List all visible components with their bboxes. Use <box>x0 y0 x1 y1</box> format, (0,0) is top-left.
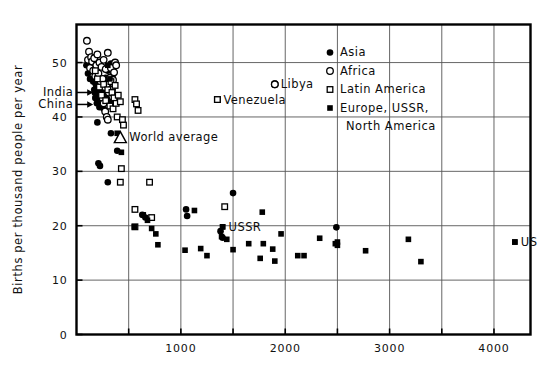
annotation-label: USSR <box>229 220 262 234</box>
marker-filled-square <box>149 226 155 232</box>
marker-open-square <box>115 92 121 98</box>
marker-open-circle <box>105 49 112 56</box>
marker-filled-square <box>512 239 518 245</box>
annotation-label: China <box>38 97 73 111</box>
marker-open-square <box>134 101 140 107</box>
marker-filled-square <box>155 242 161 248</box>
marker-open-circle <box>105 116 112 123</box>
marker-open-square <box>121 122 127 128</box>
marker-open-square <box>92 68 98 74</box>
marker-filled-square <box>145 217 151 223</box>
marker-open-circle <box>113 62 120 69</box>
marker-open-circle <box>327 68 334 75</box>
annotation-world-average: World average <box>114 130 218 144</box>
marker-filled-square <box>192 208 198 214</box>
marker-open-square <box>222 204 228 210</box>
marker-open-square <box>327 87 333 93</box>
marker-filled-circle <box>184 213 191 220</box>
marker-filled-square <box>270 246 276 252</box>
birth-rate-vs-gnp-scatter-chart: 010203040501000200030004000 IndiaChinaWo… <box>0 0 553 368</box>
marker-filled-square <box>246 241 252 247</box>
marker-filled-circle <box>230 190 237 197</box>
marker-open-square <box>119 166 125 172</box>
marker-open-circle <box>111 69 118 76</box>
legend-label: Europe, USSR, <box>340 101 429 115</box>
y-axis-title: Births per thousand people per year <box>11 65 25 294</box>
chart-background <box>0 0 553 368</box>
legend-label: Africa <box>340 64 376 78</box>
marker-filled-circle <box>105 179 112 186</box>
annotation-label: Libya <box>281 77 314 91</box>
marker-open-circle <box>94 51 101 58</box>
marker-open-square <box>109 90 115 96</box>
marker-filled-square <box>363 248 369 254</box>
marker-open-square <box>99 92 105 98</box>
marker-filled-square <box>261 241 267 247</box>
marker-filled-square <box>257 256 263 262</box>
y-tick-label: 40 <box>52 111 68 124</box>
legend-item-latin-america: Latin America <box>327 82 426 96</box>
marker-filled-square <box>107 76 113 82</box>
marker-open-square <box>110 106 116 112</box>
marker-open-circle <box>100 57 107 64</box>
x-tick-label: 2000 <box>270 342 301 355</box>
chart-figure: 010203040501000200030004000 IndiaChinaWo… <box>0 0 553 368</box>
marker-filled-square <box>327 105 333 111</box>
marker-open-square <box>118 179 124 185</box>
marker-filled-square <box>278 231 284 237</box>
legend-label: Asia <box>340 45 366 59</box>
marker-filled-square <box>418 259 424 265</box>
x-tick-label: 3000 <box>374 342 405 355</box>
marker-open-square <box>118 99 124 105</box>
y-tick-label: 10 <box>52 274 68 287</box>
marker-filled-square <box>220 224 226 230</box>
annotation-label: US <box>521 235 538 249</box>
marker-open-square <box>112 83 118 89</box>
marker-filled-square <box>230 247 236 253</box>
marker-filled-square <box>182 247 188 253</box>
marker-filled-square <box>224 237 230 243</box>
legend-item-north-america: North America <box>346 119 436 133</box>
marker-filled-circle <box>333 224 340 231</box>
marker-filled-square <box>198 246 204 252</box>
marker-open-square <box>147 179 153 185</box>
legend-item-europe-ussr: Europe, USSR, <box>327 101 429 115</box>
marker-open-circle <box>84 38 91 45</box>
y-axis-label: Births per thousand people per year <box>11 65 25 294</box>
marker-open-square <box>101 82 107 88</box>
y-tick-label: 20 <box>52 220 68 233</box>
marker-filled-circle <box>97 163 104 170</box>
marker-filled-square <box>140 212 146 218</box>
y-tick-label: 0 <box>60 329 68 342</box>
marker-open-square <box>120 117 126 123</box>
marker-open-square <box>132 207 138 213</box>
marker-open-circle <box>271 81 278 88</box>
marker-filled-square <box>219 234 225 240</box>
marker-filled-square <box>105 62 111 68</box>
marker-filled-square <box>259 209 265 215</box>
marker-filled-circle <box>94 119 101 126</box>
legend-label: Latin America <box>340 82 426 96</box>
marker-filled-square <box>153 231 159 237</box>
marker-filled-square <box>406 237 412 243</box>
annotation-label: World average <box>129 130 218 144</box>
marker-filled-square <box>132 224 138 230</box>
marker-filled-square <box>119 150 125 156</box>
marker-open-square <box>95 76 101 82</box>
marker-open-square <box>103 98 109 104</box>
legend-label: North America <box>346 119 436 133</box>
marker-filled-circle <box>108 130 115 137</box>
marker-filled-square <box>272 258 278 264</box>
x-tick-label: 1000 <box>165 342 196 355</box>
annotation-label: Venezuela <box>223 93 286 107</box>
marker-filled-square <box>335 243 341 249</box>
marker-filled-square <box>317 235 323 241</box>
marker-open-square <box>215 97 221 103</box>
marker-filled-square <box>204 253 210 259</box>
x-tick-label: 4000 <box>478 342 509 355</box>
y-tick-label: 50 <box>52 57 68 70</box>
marker-filled-square <box>301 253 307 259</box>
marker-open-square <box>135 108 141 114</box>
annotation-venezuela: Venezuela <box>215 93 286 107</box>
marker-filled-circle <box>327 49 334 56</box>
